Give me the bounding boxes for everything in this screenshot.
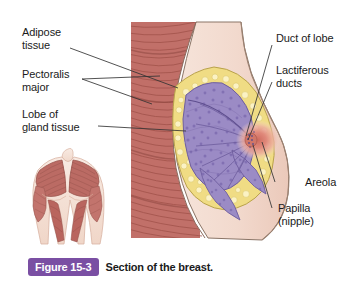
- label-adipose-tissue: Adipose tissue: [22, 26, 61, 51]
- figure-root: Adipose tissue Pectoralis major Lobe of …: [0, 0, 360, 300]
- areola-region: [236, 120, 280, 160]
- inset-torso-figure: [33, 148, 104, 244]
- figure-caption-bar: Figure 15-3 Section of the breast.: [28, 258, 213, 276]
- label-pectoralis-major: Pectoralis major: [22, 68, 69, 93]
- figure-caption-text: Section of the breast.: [106, 261, 213, 273]
- label-papilla-nipple: Papilla (nipple): [278, 202, 314, 227]
- label-areola: Areola: [305, 176, 336, 189]
- label-lactiferous-ducts: Lactiferous ducts: [276, 64, 329, 89]
- label-lobe-of-gland-tissue: Lobe of gland tissue: [22, 108, 80, 133]
- label-duct-of-lobe: Duct of lobe: [276, 32, 334, 45]
- figure-number-badge: Figure 15-3: [28, 258, 99, 276]
